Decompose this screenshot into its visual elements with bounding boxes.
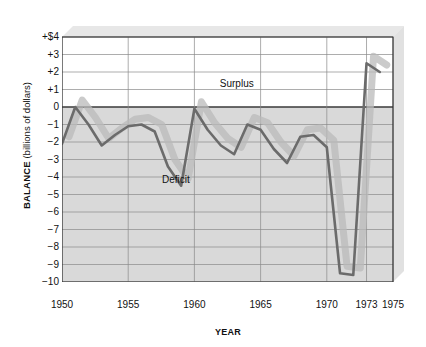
y-tick-label: −3 xyxy=(3,155,59,165)
y-tick-label: −2 xyxy=(3,137,59,147)
x-tick-label: 1960 xyxy=(174,300,214,310)
y-tick-label: +$4 xyxy=(3,32,59,42)
plot-area: SurplusDeficit xyxy=(62,37,393,282)
x-tick-label: 1975 xyxy=(373,300,413,310)
x-tick-label: 1965 xyxy=(241,300,281,310)
y-tick-label: −10 xyxy=(3,277,59,287)
annotation-surplus: Surplus xyxy=(220,78,254,89)
x-tick-label: 1950 xyxy=(42,300,82,310)
y-tick-label: +1 xyxy=(3,85,59,95)
y-tick-label: 0 xyxy=(3,102,59,112)
y-tick-label: −5 xyxy=(3,190,59,200)
x-axis-title: YEAR xyxy=(62,327,394,337)
y-tick-label: +3 xyxy=(3,50,59,60)
y-tick-label: −7 xyxy=(3,225,59,235)
y-tick-label: −4 xyxy=(3,172,59,182)
chart-figure: BALANCE (billions of dollars) +$4+3+2+10… xyxy=(0,0,426,347)
annotation-deficit: Deficit xyxy=(162,174,190,185)
x-tick-label: 1970 xyxy=(307,300,347,310)
chart-top-bevel xyxy=(62,26,404,37)
y-tick-label: −1 xyxy=(3,120,59,130)
chart-right-bevel xyxy=(393,26,404,282)
y-tick-label: +2 xyxy=(3,67,59,77)
x-axis-tick-labels: 1950195519601965197019731975 xyxy=(0,300,426,314)
y-tick-label: −8 xyxy=(3,242,59,252)
y-tick-label: −9 xyxy=(3,260,59,270)
y-tick-label: −6 xyxy=(3,207,59,217)
chart-canvas: SurplusDeficit xyxy=(62,26,404,282)
x-tick-label: 1955 xyxy=(108,300,148,310)
y-axis-tick-labels: +$4+3+2+10−1−2−3−4−5−6−7−8−9−10 xyxy=(0,0,59,347)
